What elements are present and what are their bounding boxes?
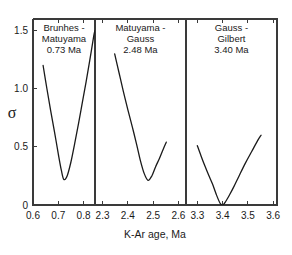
- panel-label-line1-1: Matuyama -: [115, 22, 165, 33]
- x-tick-label-1-2: 2.5: [146, 210, 160, 221]
- x-tick-label-2-1: 3.4: [216, 210, 230, 221]
- panel-label-line2-2: Gilbert: [217, 33, 245, 44]
- chart-svg: 00.51.01.5σ0.60.70.8Brunhes -Matuyama0.7…: [0, 0, 292, 255]
- x-tick-label-0-0: 0.6: [26, 210, 40, 221]
- y-tick-label-0: 0: [22, 200, 28, 211]
- panel-label-line3-2: 3.40 Ma: [214, 44, 249, 55]
- y-tick-label-2: 1.0: [14, 83, 28, 94]
- panel-label-line3-0: 0.73 Ma: [47, 44, 82, 55]
- x-tick-label-0-1: 0.7: [51, 210, 65, 221]
- curve-matuyama-gauss: [115, 54, 167, 181]
- y-axis-label: σ: [8, 104, 17, 121]
- figure-container: 00.51.01.5σ0.60.70.8Brunhes -Matuyama0.7…: [0, 0, 292, 255]
- x-tick-label-2-0: 3.3: [190, 210, 204, 221]
- x-tick-label-1-1: 2.4: [121, 210, 135, 221]
- panel-label-line2-1: Gauss: [127, 33, 155, 44]
- panel-label-line2-0: Matuyama: [42, 33, 87, 44]
- x-tick-label-2-2: 3.5: [241, 210, 255, 221]
- x-axis-title: K-Ar age, Ma: [124, 228, 186, 240]
- panel-label-line1-0: Brunhes -: [43, 22, 84, 33]
- x-tick-label-1-3: 2.6: [171, 210, 185, 221]
- x-tick-label-1-0: 2.3: [96, 210, 110, 221]
- x-tick-label-2-3: 3.6: [266, 210, 280, 221]
- y-tick-label-1: 0.5: [14, 141, 28, 152]
- panel-label-line3-1: 2.48 Ma: [123, 44, 158, 55]
- y-tick-label-3: 1.5: [14, 25, 28, 36]
- x-tick-label-0-2: 0.8: [77, 210, 91, 221]
- curve-gauss-gilbert: [197, 135, 261, 205]
- panel-label-line1-2: Gauss -: [215, 22, 248, 33]
